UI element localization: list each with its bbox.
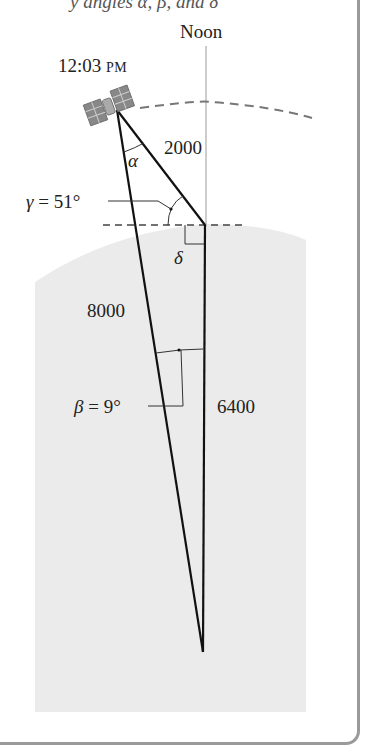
- beta-label: β = 9°: [74, 397, 121, 416]
- satellite-icon: [82, 85, 136, 126]
- orbit-path: [140, 102, 312, 118]
- gamma-value: = 51°: [34, 191, 81, 212]
- delta-label: δ: [174, 248, 183, 267]
- gamma-arc: [168, 196, 183, 225]
- diagram-canvas: [0, 0, 371, 754]
- time-label: 12:03 PM: [58, 56, 127, 75]
- distance-2000-label: 2000: [164, 138, 202, 157]
- noon-label: Noon: [180, 22, 222, 41]
- beta-value: = 9°: [83, 396, 120, 417]
- time-suffix: PM: [106, 60, 127, 75]
- alpha-label: α: [128, 151, 138, 170]
- radius-6400-label: 6400: [217, 397, 255, 416]
- gamma-label: γ = 51°: [26, 192, 80, 211]
- distance-8000-label: 8000: [87, 301, 125, 320]
- gamma-leader: [108, 201, 171, 209]
- earth-region: [35, 224, 306, 712]
- gamma-symbol: γ: [26, 191, 34, 212]
- time-value: 12:03: [58, 55, 101, 76]
